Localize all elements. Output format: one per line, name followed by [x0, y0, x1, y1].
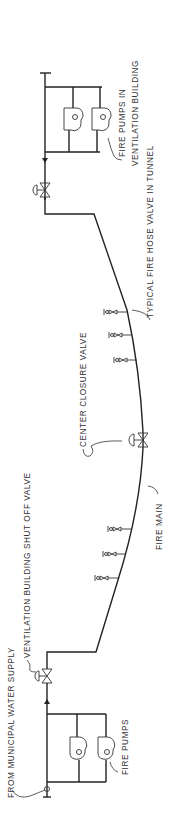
label-hose-valve: TYPICAL FIRE HOSE VALVE IN TUNNEL	[146, 145, 155, 318]
hose-valve-icon	[95, 575, 118, 581]
leader-municipal	[12, 790, 45, 797]
shutoff-valve-bottom	[35, 669, 52, 683]
hose-valve-icon	[104, 309, 127, 315]
pump-icon	[64, 108, 83, 131]
label-fire-pumps-vent-line1: FIRE PUMPS IN	[118, 89, 127, 157]
center-closure-valve	[129, 433, 148, 447]
shutoff-valve-top	[33, 183, 50, 197]
flow-arrow-icon	[42, 158, 48, 163]
hose-valve-icon	[114, 357, 137, 363]
pump-icon	[92, 108, 111, 131]
label-municipal-supply: FROM MUNICIPAL WATER SUPPLY	[7, 647, 16, 798]
label-fire-pumps-vent-line2: VENTILATION BUILDING	[131, 60, 140, 166]
pump-station-bottom	[43, 683, 115, 797]
pump-icon	[70, 737, 87, 759]
hose-valve-icon	[108, 526, 131, 532]
fire-main-diagram: FROM MUNICIPAL WATER SUPPLY VENTILATION …	[0, 0, 186, 819]
leader-shutoff	[27, 660, 36, 672]
label-fire-pumps: FIRE PUMPS	[121, 719, 130, 775]
leader-center-valve	[83, 441, 122, 457]
flow-arrow-icon	[44, 699, 50, 704]
leader-fire-pumps	[110, 762, 118, 772]
hose-valve-icon	[109, 332, 132, 338]
pump-icon	[98, 737, 115, 759]
fire-main-pipe	[45, 197, 143, 669]
label-fire-main: FIRE MAIN	[155, 503, 164, 550]
pump-station-top	[40, 73, 111, 200]
label-center-closure-valve: CENTER CLOSURE VALVE	[79, 332, 88, 447]
hose-valve-icon	[103, 551, 126, 557]
label-shutoff-valve: VENTILATION BUILDING SHUT OFF VALVE	[23, 472, 32, 658]
leader-fire-main	[148, 486, 158, 494]
